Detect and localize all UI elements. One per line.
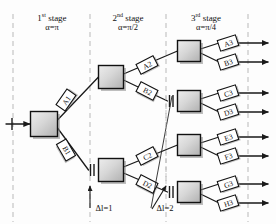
node-n3c <box>178 135 201 156</box>
edge-n3c-f3 <box>201 147 220 156</box>
stage-header-2: 2nd stageα=π/2 <box>90 12 166 32</box>
diagram-svg <box>0 0 276 224</box>
diagram-canvas: 1st stageα=π2nd stageα=π/23rd stageα=π/4… <box>0 0 276 224</box>
path-label-box-A2 <box>136 56 158 74</box>
node-n2b <box>99 159 124 182</box>
stage-alpha-1: α=π <box>14 23 90 32</box>
path-label-box-G3 <box>217 176 238 192</box>
path-label-box-C3 <box>217 85 238 101</box>
edge-n3b-d3 <box>201 103 220 112</box>
edge-n3c-e3 <box>201 137 220 143</box>
annotation-delta-l-1: Δl=1 <box>82 203 126 213</box>
edge-n3d-h3 <box>201 194 220 203</box>
path-label-box-C2 <box>136 147 158 165</box>
stage-suffix-1: st <box>42 12 46 18</box>
stage-header-3: 3rd stageα=π/4 <box>168 12 244 32</box>
node-n1 <box>31 112 58 137</box>
path-label-box-F3 <box>217 148 238 164</box>
stage-header-1: 1st stageα=π <box>14 12 90 32</box>
edge-n3b-c3 <box>201 93 220 99</box>
annotation-delta-l-2-text: Δl=2 <box>157 203 174 213</box>
stage-suffix-3: rd <box>195 12 200 18</box>
annotation-delta-l-1-text: Δl=1 <box>96 203 113 213</box>
edge-n3a-b3 <box>201 53 220 62</box>
path-label-box-D3 <box>217 104 238 120</box>
node-n3a <box>178 41 201 62</box>
node-n2a <box>99 66 124 89</box>
edge-n3a-a3 <box>201 43 220 49</box>
stage-alpha-2: α=π/2 <box>90 23 166 32</box>
path-label-box-H3 <box>217 195 238 211</box>
stage-nodes <box>31 41 204 206</box>
path-label-box-B3 <box>217 54 238 70</box>
path-label-box-B1 <box>56 139 75 161</box>
path-label-box-A3 <box>217 35 238 51</box>
node-n3b <box>178 91 201 112</box>
path-label-box-B2 <box>136 82 158 100</box>
annotation-delta-l-2: Δl=2 <box>143 203 187 213</box>
edge-n3d-g3 <box>201 184 220 190</box>
stage-alpha-3: α=π/4 <box>168 23 244 32</box>
stage-suffix-2: nd <box>117 12 123 18</box>
node-n3d <box>178 182 201 203</box>
path-label-box-E3 <box>217 129 238 145</box>
